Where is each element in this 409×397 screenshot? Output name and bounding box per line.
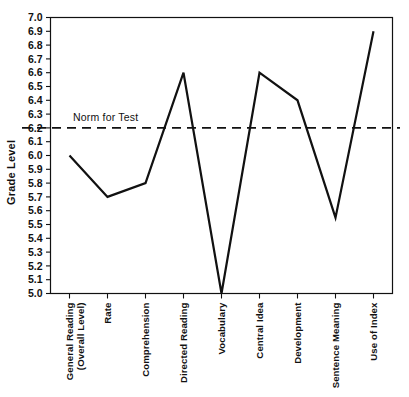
norm-for-test-label: Norm for Test xyxy=(73,111,138,123)
y-axis-tick-label: 6.9 xyxy=(28,25,43,37)
chart-container: 7.06.96.86.76.66.56.46.36.26.16.05.95.85… xyxy=(0,0,409,397)
y-axis-tick-label: 5.9 xyxy=(28,163,43,175)
x-axis-category-label-text: Comprehension xyxy=(140,302,151,376)
y-axis-tick-label: 6.6 xyxy=(28,66,43,78)
y-axis-tick-label: 5.6 xyxy=(28,204,43,216)
y-axis-tick-label: 6.4 xyxy=(28,94,43,106)
y-axis-tick-label: 5.2 xyxy=(28,260,43,272)
y-axis-tick-label: 7.0 xyxy=(28,11,43,23)
y-axis-tick-label: 5.7 xyxy=(28,191,43,203)
y-axis-tick-label: 6.3 xyxy=(28,108,43,120)
x-axis-category-label: Sentence Meaning xyxy=(330,302,341,388)
y-axis-tick-label: 5.8 xyxy=(28,177,43,189)
y-axis-tick-label: 5.3 xyxy=(28,246,43,258)
x-axis-category-label: General Reading(Overall Level) xyxy=(64,302,86,380)
x-axis-category-label: Rate xyxy=(102,303,113,324)
y-axis-tick-label: 6.0 xyxy=(28,149,43,161)
x-axis-category-label-text: General Reading(Overall Level) xyxy=(64,302,86,380)
x-axis-category-label-text: Directed Reading xyxy=(178,302,189,383)
y-axis-title-text: Grade Level xyxy=(5,140,17,205)
y-axis-tick-label: 5.0 xyxy=(28,287,43,299)
x-axis-category-label: Directed Reading xyxy=(178,302,189,383)
y-axis-tick-marks xyxy=(46,18,51,294)
data-series xyxy=(70,31,374,293)
y-axis-tick-labels: 7.06.96.86.76.66.56.46.36.26.16.05.95.85… xyxy=(28,11,43,299)
line-chart: 7.06.96.86.76.66.56.46.36.26.16.05.95.85… xyxy=(0,0,409,397)
x-axis-category-label-text: Use of Index xyxy=(368,302,379,361)
norm-for-test-annotation: Norm for Test xyxy=(22,111,400,128)
y-axis-tick-label: 5.4 xyxy=(28,232,43,244)
y-axis-tick-label: 6.1 xyxy=(28,135,43,147)
x-axis-category-label: Use of Index xyxy=(368,302,379,361)
x-axis-category-label-text: Vocabulary xyxy=(216,302,227,355)
x-axis-category-label: Central Idea xyxy=(254,302,265,359)
x-axis-category-label-text: Central Idea xyxy=(254,302,265,359)
x-axis-category-label: Vocabulary xyxy=(216,302,227,355)
y-axis-tick-label: 5.5 xyxy=(28,218,43,230)
y-axis-tick-label: 6.5 xyxy=(28,80,43,92)
x-axis-category-label-text: Rate xyxy=(102,303,113,324)
x-axis-category-labels: General Reading(Overall Level)RateCompre… xyxy=(64,302,379,389)
x-axis-category-label-text: Sentence Meaning xyxy=(330,302,341,388)
y-axis-tick-label: 5.1 xyxy=(28,273,43,285)
x-axis-category-label: Comprehension xyxy=(140,302,151,376)
y-axis-title: Grade Level xyxy=(5,140,17,205)
plot-frame xyxy=(51,18,393,294)
y-axis-tick-label: 6.8 xyxy=(28,39,43,51)
x-axis-tick-marks xyxy=(70,294,374,299)
x-axis-category-label-text: Development xyxy=(292,302,303,364)
grade-level-line xyxy=(70,31,374,293)
x-axis-category-label: Development xyxy=(292,302,303,364)
y-axis-tick-label: 6.7 xyxy=(28,53,43,65)
